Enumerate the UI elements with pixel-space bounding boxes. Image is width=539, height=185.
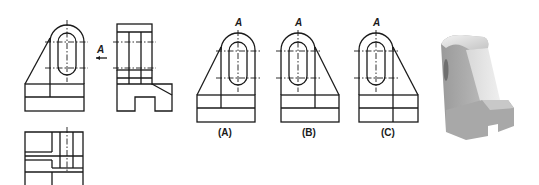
option-c-drawing[interactable] (354, 30, 418, 122)
drawing-canvas: A A A A (A) (B) (C) (0, 0, 539, 185)
front-view (25, 20, 88, 111)
top-view (25, 127, 83, 185)
side-view (96, 24, 172, 111)
option-a-label[interactable]: (A) (218, 127, 232, 138)
option-a-view-letter: A (235, 17, 242, 28)
option-b-label[interactable]: (B) (302, 127, 316, 138)
option-b-view-letter: A (295, 17, 302, 28)
option-a-drawing[interactable] (197, 30, 260, 122)
technical-drawing (0, 0, 539, 185)
view-arrow-label: A (97, 44, 104, 55)
option-b-drawing[interactable] (276, 30, 339, 122)
option-c-view-letter: A (373, 17, 380, 28)
option-c-label[interactable]: (C) (381, 127, 395, 138)
bracket-3d-model (441, 35, 514, 140)
